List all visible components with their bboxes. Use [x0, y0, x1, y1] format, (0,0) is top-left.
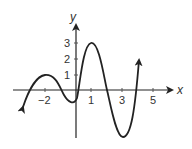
xtick-label: −2	[38, 94, 51, 106]
xtick-label: 3	[119, 94, 125, 106]
y-axis-label: y	[69, 10, 77, 24]
xtick-label: 1	[88, 94, 94, 106]
ytick-label: 1	[64, 69, 70, 81]
x-axis-label: x	[176, 83, 184, 97]
function-graph: −2 1 3 5 1 2 3 x y	[0, 0, 192, 149]
xtick-label: 5	[150, 94, 156, 106]
ytick-label: 2	[64, 53, 70, 65]
ytick-label: 3	[64, 37, 70, 49]
